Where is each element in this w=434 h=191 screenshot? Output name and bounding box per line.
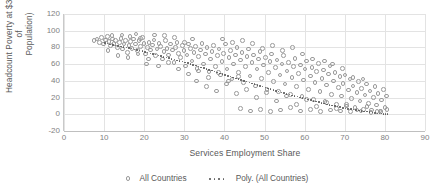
data-point [245,54,250,59]
data-point [126,55,131,60]
data-point [176,67,181,72]
trendline-dot [273,89,275,91]
trendline-dot [331,105,333,107]
data-point [203,52,208,57]
trendline-dot [358,110,360,112]
data-point [278,73,283,78]
data-point [148,48,153,53]
data-point [172,35,177,40]
y-tick-label: 60 [38,60,60,68]
trendline-dot [249,82,251,84]
data-point [298,109,303,114]
data-point [254,95,259,100]
data-point [283,82,288,87]
trendline-dot [214,71,216,73]
data-point [250,60,255,65]
data-point [371,95,376,100]
data-point [196,54,201,59]
data-point [138,36,143,41]
x-tick-label: 40 [214,133,234,142]
trendline-dot [203,67,205,69]
data-point [310,57,315,62]
trendline-dot [182,61,184,63]
data-point [316,61,321,66]
data-point [251,53,256,58]
data-point [233,53,238,58]
data-point [294,102,299,107]
data-point [365,104,370,109]
data-point [351,84,356,89]
trendline-dot [144,51,146,53]
trendline-dot [235,78,237,80]
data-point [381,87,386,92]
data-point [217,47,222,52]
data-point [333,70,338,75]
x-tick-label: 20 [134,133,154,142]
trendline-dot [262,86,264,88]
data-point [223,42,228,47]
data-point [150,43,155,48]
data-point [266,70,271,75]
trendline-dot [307,99,309,101]
trendline-dot [136,49,138,51]
y-tick-label: 80 [38,43,60,51]
data-point [351,75,356,80]
data-point [324,83,329,88]
data-point [198,48,203,53]
data-point [256,57,261,62]
data-point [349,96,354,101]
trendline-dot [251,83,253,85]
trendline-dot [227,75,229,77]
data-point [293,56,298,61]
trendline-dot [216,72,218,74]
trendline-dot [104,42,106,44]
open-circle-icon [126,176,131,181]
trendline-dot [318,101,320,103]
data-point [328,108,333,113]
data-point [338,109,343,114]
trendline-dot [232,77,234,79]
dotted-line-icon [209,173,227,183]
data-point [120,33,125,38]
data-point [248,74,253,79]
data-point [221,51,226,56]
y-axis-ticks: -20020406080100120 [36,0,60,191]
data-point [225,67,230,72]
data-point [274,99,279,104]
data-point [368,89,373,94]
data-point [186,72,191,77]
data-point [373,84,378,89]
y-axis-line [63,14,64,131]
data-point [286,60,291,65]
trendline-dot [257,84,259,86]
data-point [313,80,318,85]
data-point [341,81,346,86]
data-point [264,90,269,95]
trendline-dot [211,70,213,72]
data-point [215,53,220,58]
trendline-dot [321,102,323,104]
data-point [175,40,180,45]
trendline-dot [299,97,301,99]
data-point [298,63,303,68]
data-point [204,84,209,89]
data-point [268,109,273,114]
data-point [260,46,265,51]
data-point [364,82,369,87]
data-point [208,57,213,62]
gridline-vertical [104,14,105,131]
y-axis-title-line-2: Population) [24,0,34,94]
data-point [273,65,278,70]
data-point [117,40,122,45]
trendline-dot [208,69,210,71]
data-point [152,33,157,38]
data-point [304,59,309,64]
data-point [116,53,121,58]
y-tick-label: 100 [38,27,60,35]
data-point [248,109,253,114]
gridline-vertical [305,14,306,131]
trendline-dot [270,88,272,90]
data-point [330,62,335,67]
data-point [205,45,210,50]
trendline-dot [224,74,226,76]
